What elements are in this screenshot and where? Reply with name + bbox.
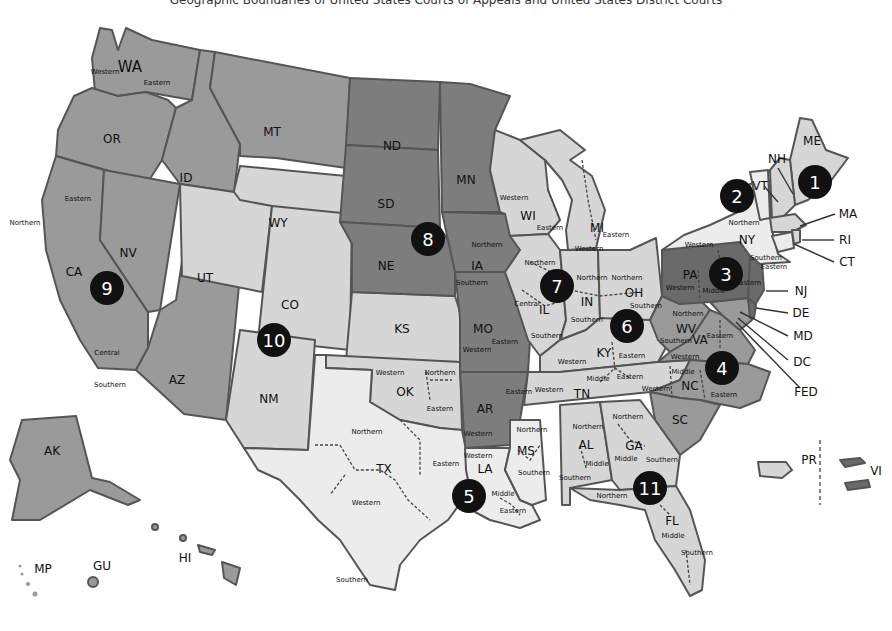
svg-text:Northern: Northern [576, 274, 607, 282]
state-ri[interactable] [792, 230, 800, 244]
svg-text:Southern: Southern [630, 302, 662, 310]
territory-vi[interactable] [840, 458, 870, 490]
svg-text:Southern: Southern [750, 254, 782, 262]
svg-text:Northern: Northern [471, 241, 502, 249]
svg-text:HI: HI [179, 551, 192, 565]
svg-text:CT: CT [839, 255, 855, 269]
svg-text:AK: AK [44, 444, 61, 458]
svg-text:UT: UT [197, 271, 214, 285]
svg-text:LA: LA [477, 462, 493, 476]
svg-text:Northern: Northern [572, 423, 603, 431]
svg-text:OH: OH [625, 286, 643, 300]
svg-text:NY: NY [739, 233, 756, 247]
circuit-5-marker[interactable]: 5 [452, 479, 486, 513]
svg-text:KS: KS [394, 322, 410, 336]
svg-text:MT: MT [263, 125, 281, 139]
circuit-9-marker[interactable]: 9 [90, 271, 124, 305]
svg-text:Western: Western [535, 386, 564, 394]
svg-text:Northern: Northern [351, 428, 382, 436]
state-sd[interactable] [340, 145, 440, 228]
svg-text:PR: PR [801, 453, 817, 467]
circuit-8-marker[interactable]: 8 [411, 222, 445, 256]
svg-text:Eastern: Eastern [500, 507, 527, 515]
circuit-3-marker[interactable]: 3 [709, 257, 743, 291]
svg-text:Western: Western [463, 346, 492, 354]
circuit-6-marker[interactable]: 6 [610, 309, 644, 343]
svg-text:Western: Western [352, 499, 381, 507]
circuit-7-marker[interactable]: 7 [540, 269, 574, 303]
svg-text:Southern: Southern [646, 456, 678, 464]
svg-text:Northern: Northern [672, 310, 703, 318]
svg-text:Middle: Middle [585, 460, 608, 468]
svg-text:OR: OR [103, 132, 121, 146]
svg-text:IN: IN [581, 295, 594, 309]
svg-text:1: 1 [809, 172, 820, 193]
svg-text:Eastern: Eastern [427, 405, 454, 413]
svg-text:Eastern: Eastern [492, 338, 519, 346]
svg-text:NV: NV [119, 246, 137, 260]
svg-text:Western: Western [91, 68, 120, 76]
svg-text:NH: NH [768, 152, 786, 166]
svg-text:Eastern: Eastern [506, 388, 533, 396]
state-hi[interactable] [152, 524, 240, 585]
svg-text:AZ: AZ [169, 373, 185, 387]
svg-text:Southern: Southern [559, 474, 591, 482]
territory-pr[interactable] [758, 462, 792, 478]
svg-text:ID: ID [180, 171, 193, 185]
svg-text:Southern: Southern [336, 576, 368, 584]
svg-text:MN: MN [456, 173, 475, 187]
svg-text:TX: TX [375, 462, 392, 476]
svg-text:Middle: Middle [491, 490, 514, 498]
svg-text:Northern: Northern [9, 219, 40, 227]
svg-text:GA: GA [625, 439, 643, 453]
state-wa[interactable] [92, 28, 200, 100]
svg-text:Southern: Southern [94, 381, 126, 389]
circuit-4-marker[interactable]: 4 [705, 351, 739, 385]
svg-text:MA: MA [839, 207, 858, 221]
circuit-1-marker[interactable]: 1 [798, 165, 832, 199]
svg-text:3: 3 [720, 264, 731, 285]
svg-text:Western: Western [500, 194, 529, 202]
svg-text:Western: Western [671, 353, 700, 361]
svg-text:Western: Western [558, 358, 587, 366]
svg-text:Southern: Southern [531, 332, 563, 340]
svg-text:TN: TN [573, 387, 590, 401]
circuit-10-marker[interactable]: 10 [257, 323, 291, 357]
svg-text:NE: NE [378, 259, 395, 273]
svg-text:Middle: Middle [614, 455, 637, 463]
territory-gu[interactable] [88, 577, 98, 587]
svg-text:FL: FL [665, 514, 679, 528]
svg-text:Western: Western [642, 385, 671, 393]
svg-text:WA: WA [118, 58, 143, 76]
svg-text:NJ: NJ [795, 284, 808, 298]
svg-text:Eastern: Eastern [761, 263, 788, 271]
svg-text:IA: IA [471, 259, 484, 273]
svg-text:Southern: Southern [518, 469, 550, 477]
svg-text:RI: RI [839, 233, 851, 247]
svg-text:OK: OK [396, 385, 414, 399]
svg-text:Southern: Southern [660, 337, 692, 345]
us-courts-map: WA OR CA NV ID MT AZ AK HI GU MP WY UT C… [0, 0, 892, 631]
svg-text:Eastern: Eastern [537, 224, 564, 232]
svg-text:Eastern: Eastern [144, 79, 171, 87]
svg-text:Middle: Middle [586, 375, 609, 383]
svg-text:DE: DE [793, 306, 810, 320]
svg-text:9: 9 [101, 278, 112, 299]
svg-text:Eastern: Eastern [65, 195, 92, 203]
svg-text:AL: AL [579, 438, 594, 452]
svg-text:Eastern: Eastern [603, 231, 630, 239]
svg-text:4: 4 [716, 358, 727, 379]
svg-text:Eastern: Eastern [711, 391, 738, 399]
state-fl[interactable] [570, 486, 705, 596]
svg-text:Western: Western [685, 241, 714, 249]
svg-text:Northern: Northern [524, 259, 555, 267]
state-ak[interactable] [10, 416, 140, 520]
circuit-11-marker[interactable]: 11 [633, 471, 667, 505]
svg-text:CA: CA [66, 265, 83, 279]
circuit-2-marker[interactable]: 2 [720, 179, 754, 213]
svg-text:Northern: Northern [611, 274, 642, 282]
svg-text:8: 8 [422, 229, 433, 250]
svg-text:Western: Western [666, 284, 695, 292]
svg-text:KY: KY [597, 346, 612, 360]
svg-text:Northern: Northern [612, 413, 643, 421]
